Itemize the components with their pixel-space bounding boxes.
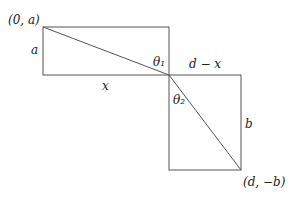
angle-label-theta1: θ₁ — [153, 56, 165, 68]
refraction-diagram — [0, 0, 297, 197]
point-label-0-a: (0, a) — [8, 14, 40, 26]
point-label-d-minus-b: (d, −b) — [243, 176, 285, 188]
side-label-x: x — [102, 80, 109, 92]
side-label-a: a — [31, 44, 38, 56]
side-label-d-minus-x: d − x — [189, 58, 221, 70]
incident-ray — [43, 27, 169, 75]
side-label-b: b — [245, 118, 253, 130]
angle-label-theta2: θ₂ — [173, 94, 185, 106]
refracted-ray — [169, 75, 241, 170]
